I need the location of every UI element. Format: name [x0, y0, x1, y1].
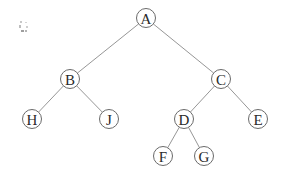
node-label: C: [216, 72, 226, 88]
node-label: D: [179, 112, 190, 128]
edge-d-g: [189, 127, 200, 147]
tree-node-g: G: [195, 147, 214, 166]
edge-a-b: [77, 24, 138, 73]
tree-node-d: D: [175, 110, 194, 129]
node-label: B: [65, 72, 75, 88]
tree-node-f: F: [154, 147, 173, 166]
edge-c-d: [190, 86, 214, 112]
tree-node-h: H: [23, 110, 42, 129]
tree-node-c: C: [212, 70, 231, 89]
tree-node-a: A: [137, 9, 156, 28]
node-label: F: [159, 149, 167, 165]
node-label: G: [199, 149, 210, 165]
tree-node-e: E: [249, 110, 268, 129]
tree-node-j: J: [100, 110, 119, 129]
edge-b-h: [39, 86, 64, 112]
node-label: E: [253, 112, 262, 128]
tree-nodes: ABCHJDEFG: [23, 9, 268, 166]
edge-a-c: [153, 24, 213, 73]
edge-c-e: [227, 86, 251, 112]
node-label: J: [106, 112, 112, 128]
binary-tree-diagram: ABCHJDEFG: [0, 0, 286, 179]
node-label: H: [27, 112, 38, 128]
edge-b-j: [77, 86, 103, 112]
node-label: A: [141, 11, 152, 27]
tree-node-b: B: [61, 70, 80, 89]
edge-d-f: [168, 127, 180, 147]
